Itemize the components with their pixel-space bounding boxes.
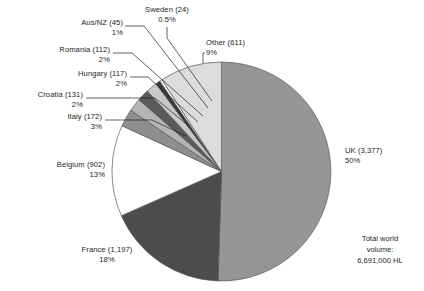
total-note-line1: Total world	[339, 233, 421, 244]
leader-line-other	[203, 53, 205, 63]
callout-percent-romania: 2%	[31, 55, 110, 65]
callout-italy: Italy (172) 3%	[42, 112, 102, 132]
callout-romania: Romania (112) 2%	[31, 45, 110, 65]
callout-label-aus-nz: Aus/NZ (45)	[53, 18, 123, 28]
callout-croatia: Croatia (131) 2%	[10, 90, 83, 110]
callout-france: France (1,197) 18%	[64, 245, 150, 265]
callout-sweden: Sweden (24) 0.5%	[131, 5, 203, 25]
callout-label-italy: Italy (172)	[42, 112, 102, 122]
callout-percent-hungary: 2%	[48, 79, 127, 89]
callout-percent-sweden: 0.5%	[131, 15, 203, 25]
total-world-volume-note: Total world volume: 6,691,000 HL	[339, 233, 421, 266]
callout-label-romania: Romania (112)	[31, 45, 110, 55]
callout-aus-nz: Aus/NZ (45) 1%	[53, 18, 123, 38]
callout-label-croatia: Croatia (131)	[10, 90, 83, 100]
callout-percent-croatia: 2%	[10, 100, 83, 110]
callout-uk: UK (3,377) 50%	[345, 146, 415, 166]
callout-label-hungary: Hungary (117)	[48, 69, 127, 79]
callout-percent-italy: 3%	[42, 122, 102, 132]
callout-percent-uk: 50%	[345, 156, 415, 166]
callout-label-france: France (1,197)	[64, 245, 150, 255]
callout-hungary: Hungary (117) 2%	[48, 69, 127, 89]
pie-chart-figure: Sweden (24) 0.5% Aus/NZ (45) 1% Other (6…	[0, 0, 424, 291]
callout-label-belgium: Belgium (902)	[30, 160, 105, 170]
callout-percent-other: 9%	[206, 48, 276, 58]
callout-belgium: Belgium (902) 13%	[30, 160, 105, 180]
callout-label-other: Other (611)	[206, 38, 276, 48]
total-note-line2: volume:	[339, 244, 421, 255]
callout-percent-belgium: 13%	[30, 170, 105, 180]
total-note-line3: 6,691,000 HL	[339, 255, 421, 266]
callout-other: Other (611) 9%	[206, 38, 276, 58]
callout-percent-france: 18%	[64, 255, 150, 265]
callout-label-sweden: Sweden (24)	[131, 5, 203, 15]
pie-slice-uk[interactable]	[218, 62, 331, 281]
callout-percent-aus-nz: 1%	[53, 28, 123, 38]
callout-label-uk: UK (3,377)	[345, 146, 415, 156]
